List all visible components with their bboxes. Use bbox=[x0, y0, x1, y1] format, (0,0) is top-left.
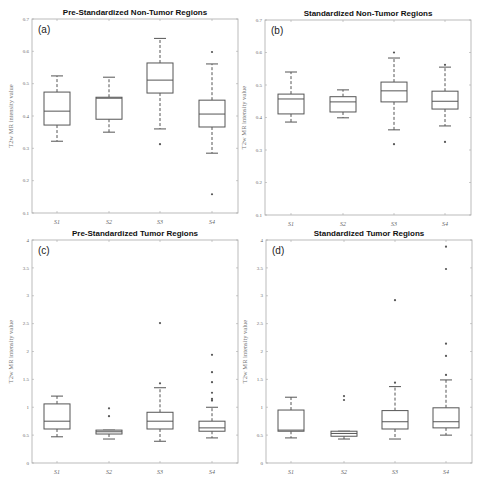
outlier-point bbox=[211, 354, 213, 356]
y-tick-label: 0.1 bbox=[23, 211, 30, 216]
y-tick-label: 0.5 bbox=[257, 433, 264, 438]
y-tick-label: 3.5 bbox=[23, 266, 30, 271]
y-tick-label: 1 bbox=[261, 405, 264, 410]
outlier-point bbox=[445, 355, 447, 357]
y-tick-label: 3.5 bbox=[257, 266, 264, 271]
y-axis-label: T2w MR intensity value bbox=[7, 84, 14, 147]
outlier-point bbox=[445, 343, 447, 345]
y-tick-label: 3 bbox=[27, 293, 30, 298]
y-axis-label: T2w MR intensity value bbox=[7, 320, 14, 383]
outlier-point bbox=[159, 322, 161, 324]
y-tick-label: 2 bbox=[261, 349, 264, 354]
panel-label: (a) bbox=[38, 24, 50, 35]
y-tick-label: 2 bbox=[27, 349, 30, 354]
outlier-point bbox=[211, 392, 213, 394]
chart-title: Standardized Tumor Regions bbox=[314, 229, 425, 238]
x-tick-label: S3 bbox=[392, 469, 398, 475]
x-tick-label: S2 bbox=[341, 469, 347, 475]
outlier-point bbox=[445, 374, 447, 376]
outlier-point bbox=[211, 193, 213, 195]
outlier-point bbox=[394, 299, 396, 301]
y-tick-label: 0 bbox=[27, 461, 30, 466]
x-tick-label: S3 bbox=[391, 221, 397, 227]
box-S2: S2 bbox=[96, 240, 122, 475]
outlier-point bbox=[159, 143, 161, 145]
outlier-point bbox=[343, 395, 345, 397]
panel-d: Standardized Tumor Regions(d)00.511.522.… bbox=[241, 229, 472, 475]
box-S1: S1 bbox=[278, 20, 304, 227]
y-tick-label: 4 bbox=[261, 238, 264, 243]
box-S2: S2 bbox=[331, 240, 357, 475]
box-S3: S3 bbox=[382, 240, 408, 475]
y-tick-label: 3 bbox=[261, 293, 264, 298]
x-tick-label: S3 bbox=[157, 219, 163, 225]
outlier-point bbox=[211, 399, 213, 401]
y-tick-label: 0.5 bbox=[23, 433, 30, 438]
outlier-point bbox=[211, 51, 213, 53]
x-tick-label: S2 bbox=[106, 469, 112, 475]
box-S4: S4 bbox=[199, 240, 225, 475]
outlier-point bbox=[211, 381, 213, 383]
outlier-point bbox=[394, 382, 396, 384]
y-tick-label: 0 bbox=[261, 461, 264, 466]
outlier-point bbox=[444, 64, 446, 66]
y-tick-label: 1.5 bbox=[257, 377, 264, 382]
y-axis-label: T2w MR intensity value bbox=[241, 320, 248, 383]
outlier-point bbox=[159, 382, 161, 384]
chart-title: Pre-Standardized Non-Tumor Regions bbox=[63, 8, 208, 17]
y-tick-label: 0.5 bbox=[256, 83, 263, 88]
y-tick-label: 0.2 bbox=[23, 178, 30, 183]
y-tick-label: 0.4 bbox=[23, 114, 30, 119]
box-S3: S3 bbox=[147, 240, 173, 475]
outlier-point bbox=[108, 407, 110, 409]
panel-b: Standardized Non-Tumor Regions(b)0.10.20… bbox=[240, 9, 471, 227]
panel-label: (d) bbox=[272, 245, 284, 256]
outlier-point bbox=[108, 415, 110, 417]
x-tick-label: S2 bbox=[340, 221, 346, 227]
box-S1: S1 bbox=[278, 240, 304, 475]
y-tick-label: 1 bbox=[27, 405, 30, 410]
panel-c: Pre-Standardized Tumor Regions(c)00.511.… bbox=[7, 229, 238, 475]
y-tick-label: 0.2 bbox=[256, 180, 263, 185]
x-tick-label: S1 bbox=[288, 221, 294, 227]
x-tick-label: S4 bbox=[209, 219, 215, 225]
box-S3: S3 bbox=[381, 20, 407, 227]
outlier-point bbox=[445, 246, 447, 248]
y-tick-label: 0.3 bbox=[256, 148, 263, 153]
y-tick-label: 0.7 bbox=[256, 18, 263, 23]
outlier-point bbox=[444, 141, 446, 143]
x-tick-label: S4 bbox=[443, 469, 449, 475]
x-tick-label: S3 bbox=[157, 469, 163, 475]
x-tick-label: S2 bbox=[106, 219, 112, 225]
y-axis-label: T2w MR intensity value bbox=[240, 86, 247, 149]
x-tick-label: S1 bbox=[54, 219, 60, 225]
y-tick-label: 0.3 bbox=[23, 146, 30, 151]
y-tick-label: 1.5 bbox=[23, 377, 30, 382]
box-S2: S2 bbox=[330, 20, 356, 227]
y-tick-label: 0.4 bbox=[256, 115, 263, 120]
x-tick-label: S1 bbox=[288, 469, 294, 475]
box-S4: S4 bbox=[432, 20, 458, 227]
y-axis: 0.10.20.30.40.50.60.7 bbox=[256, 18, 471, 218]
y-tick-label: 0.7 bbox=[23, 17, 30, 22]
panel-a: Pre-Standardized Non-Tumor Regions(a)0.1… bbox=[7, 8, 238, 225]
outlier-point bbox=[393, 51, 395, 53]
y-tick-label: 4 bbox=[27, 238, 30, 243]
box-S2: S2 bbox=[96, 19, 122, 225]
y-tick-label: 2.5 bbox=[257, 321, 264, 326]
y-tick-label: 0.1 bbox=[256, 213, 263, 218]
outlier-point bbox=[393, 143, 395, 145]
x-tick-label: S4 bbox=[442, 221, 448, 227]
box-S4: S4 bbox=[199, 19, 225, 225]
x-tick-label: S1 bbox=[54, 469, 60, 475]
outlier-point bbox=[445, 268, 447, 270]
outlier-point bbox=[211, 371, 213, 373]
box-S1: S1 bbox=[44, 240, 70, 475]
chart-title: Standardized Non-Tumor Regions bbox=[304, 9, 433, 18]
box-S1: S1 bbox=[44, 19, 70, 225]
plot-area bbox=[265, 20, 471, 215]
panel-label: (b) bbox=[271, 25, 283, 36]
y-tick-label: 0.5 bbox=[23, 81, 30, 86]
box-S3: S3 bbox=[147, 19, 173, 225]
boxplot-figure: Pre-Standardized Non-Tumor Regions(a)0.1… bbox=[0, 0, 487, 489]
